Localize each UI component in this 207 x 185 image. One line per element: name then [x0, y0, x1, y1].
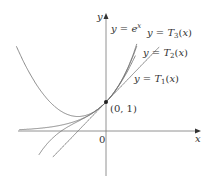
x-axis-label: x [195, 133, 201, 144]
curve-label-T3: y = T3(x) [146, 27, 192, 40]
taylor-polynomial-figure: y x 0 (0, 1) y = ex y = T3(x) y = T2(x) … [0, 0, 207, 185]
curve-label-exp: y = ex [110, 22, 141, 34]
point-0-1 [104, 100, 108, 104]
y-axis-arrow-icon [104, 13, 109, 19]
curve-T3 [39, 46, 137, 155]
point-label: (0, 1) [110, 103, 137, 114]
plot: y x 0 (0, 1) y = ex y = T3(x) y = T2(x) … [0, 0, 207, 185]
origin-label: 0 [99, 134, 105, 145]
curve-label-T1: y = T1(x) [133, 73, 179, 86]
y-axis-label: y [96, 11, 103, 22]
